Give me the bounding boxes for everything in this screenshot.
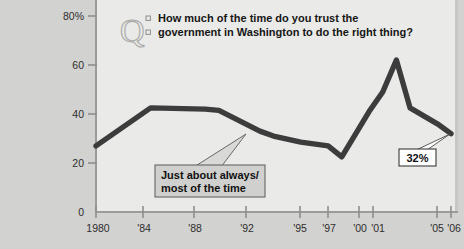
x-tick-label-00: '00	[353, 222, 367, 234]
x-tick-label-95: '95	[293, 222, 307, 234]
x-tick-label-92: '92	[240, 222, 254, 234]
x-tick-label-06: '06	[447, 222, 461, 234]
x-tick-label-97: '97	[322, 222, 336, 234]
y-tick-label-0: 0	[78, 206, 84, 218]
question-line-2: government in Washington to do the right…	[158, 26, 413, 38]
y-tick-label-40: 40	[72, 108, 84, 120]
y-tick-label-60: 60	[72, 59, 84, 71]
x-tick-label-84: '84	[137, 222, 151, 234]
x-tick-label-01: '01	[371, 222, 385, 234]
question-line-1: How much of the time do you trust the	[158, 12, 358, 24]
x-tick-label-1980: 1980	[86, 222, 110, 234]
endpoint-value-label: 32%	[406, 152, 428, 164]
trust-in-government-line-chart: 80% 60 40 20 0 1980 '84 '88 '92 '95 '97 …	[0, 0, 464, 249]
x-tick-label-05: '05	[430, 222, 444, 234]
y-tick-label-80: 80%	[63, 10, 84, 22]
quote-q-icon: Q	[120, 12, 145, 49]
chart-figure: 80% 60 40 20 0 1980 '84 '88 '92 '95 '97 …	[0, 0, 464, 249]
x-tick-label-88: '88	[188, 222, 202, 234]
plot-right-edge	[455, 0, 458, 212]
x-tick-labels: 1980 '84 '88 '92 '95 '97 '00 '01 '05 '06	[86, 222, 461, 234]
series-callout-line-1: Just about always/	[161, 169, 259, 181]
y-tick-label-20: 20	[72, 157, 84, 169]
series-callout-line-2: most of the time	[161, 182, 246, 194]
y-tick-labels: 80% 60 40 20 0	[63, 10, 84, 218]
